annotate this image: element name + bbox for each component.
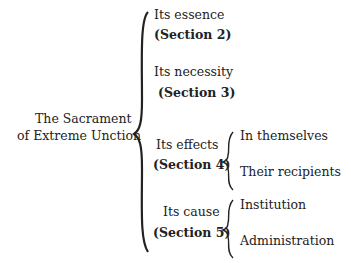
effects-child-themselves: In themselves	[240, 130, 328, 143]
branch-effects-section: (Section 4)	[153, 159, 230, 172]
effects-child-recipients: Their recipients	[240, 166, 341, 179]
branch-cause-label: Its cause	[163, 206, 220, 219]
cause-child-administration: Administration	[240, 235, 334, 248]
root-title-line2: of Extreme Unction	[17, 130, 141, 143]
branch-cause-section: (Section 5)	[153, 227, 230, 240]
root-title-line1: The Sacrament	[35, 113, 132, 126]
branch-essence-section: (Section 2)	[154, 29, 231, 42]
cause-child-institution: Institution	[240, 199, 306, 212]
branch-essence-label: Its essence	[154, 9, 224, 22]
branch-effects-label: Its effects	[156, 139, 218, 152]
branch-necessity-label: Its necessity	[154, 66, 233, 79]
branch-necessity-section: (Section 3)	[158, 87, 235, 100]
